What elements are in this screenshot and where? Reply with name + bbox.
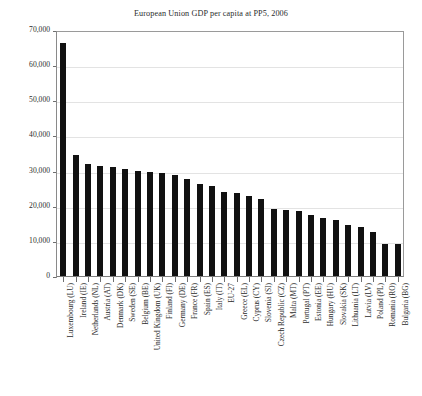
x-axis-tick-label: Romania (RO): [388, 283, 397, 327]
x-axis-tick-mark: [212, 277, 213, 282]
x-axis-tick-mark: [286, 277, 287, 282]
bar: [382, 244, 388, 276]
bar: [320, 218, 326, 276]
chart-title: European Union GDP per capita at PP5, 20…: [0, 9, 422, 18]
x-axis-tick-mark: [274, 277, 275, 282]
bar: [358, 227, 364, 276]
x-axis-tick-label: United Kingdom (UK): [153, 283, 162, 350]
x-axis-tick-mark: [224, 277, 225, 282]
bar: [184, 179, 190, 276]
x-axis-tick-mark: [373, 277, 374, 282]
x-axis-tick-label: Spain (ES): [203, 283, 212, 315]
bar: [209, 186, 215, 276]
x-axis-tick-label: Hungary (HU): [326, 283, 335, 326]
bar: [345, 225, 351, 276]
x-axis-tick-mark: [76, 277, 77, 282]
y-axis-tick-label: 0: [46, 271, 50, 280]
bar: [85, 164, 91, 276]
x-axis-tick-label: Denmark (DK): [116, 283, 125, 328]
x-axis-tick-mark: [336, 277, 337, 282]
x-axis-tick-mark: [237, 277, 238, 282]
x-axis-tick-mark: [385, 277, 386, 282]
x-axis-tick-label: Germany (DE): [178, 283, 187, 327]
bar: [60, 43, 66, 276]
x-axis-tick-label: Latvia (LV): [364, 283, 373, 318]
x-axis-tick-mark: [138, 277, 139, 282]
x-axis-tick-mark: [100, 277, 101, 282]
x-axis-tick-mark: [299, 277, 300, 282]
bar: [172, 175, 178, 276]
y-axis-tick-label: 60,000: [29, 60, 50, 69]
bar: [110, 167, 116, 276]
y-axis-tick-label: 70,000: [29, 25, 50, 34]
x-axis-tick-label: Slovakia (SK): [339, 283, 348, 325]
x-axis-tick-label: Ireland (IE): [79, 283, 88, 318]
x-axis-tick-mark: [361, 277, 362, 282]
x-axis-tick-mark: [348, 277, 349, 282]
x-axis-tick-mark: [261, 277, 262, 282]
x-axis-tick-label: Czech Republic (CZ): [277, 283, 286, 346]
x-axis-tick-label: Slovenia (SI): [264, 283, 273, 322]
bar: [159, 173, 165, 276]
bar: [135, 171, 141, 276]
x-axis-tick-mark: [150, 277, 151, 282]
x-axis-tick-label: Italy (IT): [215, 283, 224, 310]
bar: [221, 192, 227, 276]
bar: [258, 199, 264, 276]
x-axis-tick-label: Finland (FI): [165, 283, 174, 319]
x-axis-tick-mark: [113, 277, 114, 282]
x-axis-tick-label: Belgium (BE): [141, 283, 150, 325]
x-axis-tick-mark: [175, 277, 176, 282]
bar: [234, 193, 240, 276]
x-axis-tick-label: Portugal (PT): [302, 283, 311, 323]
x-axis-tick-label: Greece (EL): [240, 283, 249, 320]
x-axis-tick-mark: [200, 277, 201, 282]
y-axis-tick-label: 50,000: [29, 95, 50, 104]
bar: [246, 196, 252, 276]
x-axis-tick-label: Estonia (EE): [314, 283, 323, 321]
x-axis-tick-label: Luxembourg (LU): [66, 283, 75, 338]
x-axis-tick-mark: [162, 277, 163, 282]
x-axis-labels: Luxembourg (LU)Ireland (IE)Netherlands (…: [57, 283, 404, 393]
bar: [370, 232, 376, 276]
bar: [147, 172, 153, 276]
x-axis-tick-label: Netherlands (NL): [91, 283, 100, 335]
x-axis-tick-mark: [311, 277, 312, 282]
bar: [333, 220, 339, 276]
x-axis-tick-mark: [398, 277, 399, 282]
y-axis-tick-label: 30,000: [29, 166, 50, 175]
x-axis-tick-mark: [187, 277, 188, 282]
bar: [271, 209, 277, 276]
x-axis-tick-mark: [323, 277, 324, 282]
x-axis-tick-label: Cyprus (CY): [252, 283, 261, 321]
bar: [197, 184, 203, 276]
bar: [296, 211, 302, 276]
bar: [283, 210, 289, 276]
x-axis-tick-mark: [125, 277, 126, 282]
x-axis-tick-label: EU-27: [227, 283, 236, 303]
bar-series: [57, 32, 403, 276]
x-axis-tick-label: Bulgaria (BG): [401, 283, 410, 326]
x-axis-tick-label: France (FR): [190, 283, 199, 319]
x-axis-tick-label: Austria (AT): [103, 283, 112, 321]
y-axis-tick-label: 20,000: [29, 201, 50, 210]
x-axis-tick-mark: [249, 277, 250, 282]
chart-figure: European Union GDP per capita at PP5, 20…: [0, 0, 422, 396]
y-axis-ticks: 70,00060,00050,00040,00030,00020,00010,0…: [0, 31, 57, 277]
bar: [308, 215, 314, 277]
y-axis-tick-label: 10,000: [29, 236, 50, 245]
x-axis-tick-label: Poland (PL): [376, 283, 385, 319]
bar: [73, 155, 79, 276]
x-axis-tick-mark: [63, 277, 64, 282]
plot-area: [57, 31, 404, 277]
bar: [122, 169, 128, 276]
x-axis-tick-label: Sweden (SE): [128, 283, 137, 322]
bar: [97, 166, 103, 276]
x-axis-tick-mark: [88, 277, 89, 282]
x-axis-tick-label: Lithuania (LT): [351, 283, 360, 326]
y-axis-tick-label: 40,000: [29, 130, 50, 139]
bar: [395, 244, 401, 276]
x-axis-tick-label: Malta (MT): [289, 283, 298, 318]
